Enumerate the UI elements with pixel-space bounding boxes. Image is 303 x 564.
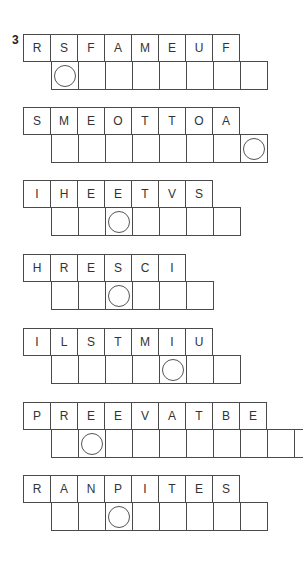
letter-cell: U xyxy=(185,34,213,62)
scrambled-letters-row: RANPITES xyxy=(23,475,240,503)
letter-cell: I xyxy=(23,328,51,356)
answer-cell[interactable] xyxy=(78,502,106,531)
anagram-puzzle: PREEVATBE xyxy=(0,402,303,460)
letter-cell: S xyxy=(104,254,132,282)
letter-cell: R xyxy=(50,254,78,282)
answer-cell-circled[interactable] xyxy=(159,355,187,384)
answer-cell[interactable] xyxy=(240,502,268,531)
answer-cell[interactable] xyxy=(132,355,160,384)
letter-cell: M xyxy=(50,107,78,135)
answer-cell[interactable] xyxy=(51,429,79,458)
letter-cell: E xyxy=(77,402,105,430)
letter-cell: E xyxy=(77,180,105,208)
answer-cell[interactable] xyxy=(132,207,160,236)
answer-cell[interactable] xyxy=(51,355,79,384)
letter-cell: P xyxy=(23,402,51,430)
answer-cell[interactable] xyxy=(132,134,160,163)
answer-cell[interactable] xyxy=(51,502,79,531)
answer-cell[interactable] xyxy=(78,281,106,310)
answer-cell[interactable] xyxy=(186,61,214,90)
letter-cell: A xyxy=(104,34,132,62)
answer-cell-circled[interactable] xyxy=(78,429,106,458)
letter-cell: E xyxy=(185,475,213,503)
anagram-puzzle: RANPITES xyxy=(0,475,303,533)
letter-cell: V xyxy=(131,402,159,430)
anagram-puzzle: HRESCI xyxy=(0,254,303,312)
answer-cell[interactable] xyxy=(186,134,214,163)
answer-cell[interactable] xyxy=(78,207,106,236)
letter-cell: L xyxy=(50,328,78,356)
answer-cell[interactable] xyxy=(240,61,268,90)
letter-cell: E xyxy=(104,402,132,430)
anagram-puzzle: RSFAMEUF xyxy=(0,34,303,92)
answer-cell[interactable] xyxy=(240,429,268,458)
answer-cell-circled[interactable] xyxy=(240,134,268,163)
answer-cell[interactable] xyxy=(51,134,79,163)
circle-marker-icon xyxy=(108,285,130,307)
answer-cell[interactable] xyxy=(105,429,133,458)
answer-cell-circled[interactable] xyxy=(51,61,79,90)
answer-cell[interactable] xyxy=(159,281,187,310)
answer-cell[interactable] xyxy=(105,355,133,384)
answer-cell[interactable] xyxy=(159,134,187,163)
circle-marker-icon xyxy=(54,65,76,87)
letter-cell: S xyxy=(185,180,213,208)
letter-cell: E xyxy=(104,180,132,208)
answer-cell[interactable] xyxy=(159,502,187,531)
answer-cell[interactable] xyxy=(186,502,214,531)
answer-cell[interactable] xyxy=(213,207,241,236)
answer-cell[interactable] xyxy=(132,429,160,458)
letter-cell: E xyxy=(77,107,105,135)
circle-marker-icon xyxy=(81,433,103,455)
answer-cell[interactable] xyxy=(51,281,79,310)
letter-cell: H xyxy=(50,180,78,208)
answer-cell[interactable] xyxy=(213,429,241,458)
scrambled-letters-row: PREEVATBE xyxy=(23,402,267,430)
letter-cell: B xyxy=(212,402,240,430)
scrambled-letters-row: IHEETVS xyxy=(23,180,213,208)
letter-cell: M xyxy=(131,34,159,62)
answer-cell[interactable] xyxy=(159,207,187,236)
answer-cell[interactable] xyxy=(186,281,214,310)
letter-cell: T xyxy=(185,402,213,430)
letter-cell: M xyxy=(131,328,159,356)
answer-cell[interactable] xyxy=(132,502,160,531)
answer-cell[interactable] xyxy=(159,61,187,90)
answer-cell[interactable] xyxy=(105,61,133,90)
anagram-puzzle: ILSTMIU xyxy=(0,328,303,386)
letter-cell: R xyxy=(23,475,51,503)
answer-cell[interactable] xyxy=(78,355,106,384)
answer-cell[interactable] xyxy=(267,429,295,458)
answer-cell[interactable] xyxy=(186,355,214,384)
answer-cell[interactable] xyxy=(213,134,241,163)
letter-cell: R xyxy=(23,34,51,62)
letter-cell: N xyxy=(77,475,105,503)
answer-cell[interactable] xyxy=(213,355,241,384)
answer-cell[interactable] xyxy=(294,429,303,458)
letter-cell: I xyxy=(23,180,51,208)
answer-cell[interactable] xyxy=(51,207,79,236)
letter-cell: R xyxy=(50,402,78,430)
answer-row xyxy=(51,503,268,531)
letter-cell: I xyxy=(158,328,186,356)
answer-cell-circled[interactable] xyxy=(105,281,133,310)
answer-cell[interactable] xyxy=(213,61,241,90)
answer-cell[interactable] xyxy=(78,134,106,163)
answer-cell[interactable] xyxy=(132,61,160,90)
answer-cell[interactable] xyxy=(105,134,133,163)
letter-cell: I xyxy=(158,254,186,282)
answer-cell-circled[interactable] xyxy=(105,502,133,531)
answer-cell-circled[interactable] xyxy=(105,207,133,236)
letter-cell: T xyxy=(131,107,159,135)
letter-cell: U xyxy=(185,328,213,356)
answer-cell[interactable] xyxy=(213,502,241,531)
answer-cell[interactable] xyxy=(186,207,214,236)
answer-cell[interactable] xyxy=(78,61,106,90)
answer-cell[interactable] xyxy=(132,281,160,310)
scrambled-letters-row: ILSTMIU xyxy=(23,328,213,356)
scrambled-letters-row: SMEOTTOA xyxy=(23,107,240,135)
letter-cell: A xyxy=(50,475,78,503)
circle-marker-icon xyxy=(108,506,130,528)
answer-cell[interactable] xyxy=(159,429,187,458)
answer-cell[interactable] xyxy=(186,429,214,458)
